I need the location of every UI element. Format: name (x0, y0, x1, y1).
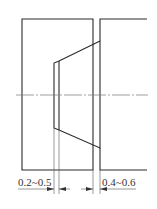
right-block-bottom (100, 148, 147, 170)
dim-1-label: 0.2~0.5 (18, 176, 52, 188)
right-block-top (100, 19, 147, 41)
dim-2-arrow-right (86, 187, 93, 191)
dim-2-label: 0.4~0.6 (102, 176, 136, 188)
dim-1-arrow-left (59, 187, 66, 191)
section-diagram: 0.2~0.5 0.4~0.6 (0, 0, 157, 209)
left-block-outline (22, 19, 93, 170)
